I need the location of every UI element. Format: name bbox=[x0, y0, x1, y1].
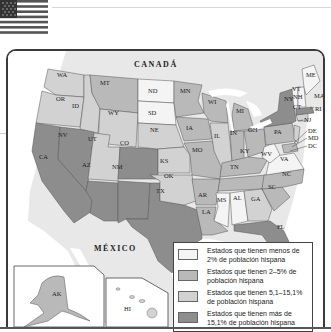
svg-text:AK: AK bbox=[52, 290, 62, 297]
svg-text:WI: WI bbox=[208, 98, 216, 105]
svg-text:OK: OK bbox=[164, 172, 174, 179]
svg-text:MT: MT bbox=[100, 79, 110, 86]
svg-text:MI: MI bbox=[236, 107, 244, 114]
svg-text:NC: NC bbox=[282, 170, 291, 177]
svg-text:VA: VA bbox=[280, 155, 289, 162]
legend-swatch bbox=[178, 270, 198, 281]
svg-text:AL: AL bbox=[233, 194, 242, 201]
legend-item-5to15: Estados que tienen 5,1–15,1% de població… bbox=[178, 289, 307, 306]
svg-text:IN: IN bbox=[230, 129, 237, 136]
svg-text:NV: NV bbox=[58, 131, 68, 138]
svg-text:IL: IL bbox=[214, 132, 220, 139]
svg-text:CT: CT bbox=[293, 103, 301, 110]
svg-text:NJ: NJ bbox=[304, 116, 312, 123]
svg-text:CO: CO bbox=[120, 139, 129, 146]
legend-label: Estados que tienen 5,1–15,1% de població… bbox=[207, 289, 307, 306]
svg-text:RI: RI bbox=[315, 105, 322, 112]
legend-swatch bbox=[178, 249, 198, 260]
header-rule bbox=[52, 7, 331, 8]
svg-text:TX: TX bbox=[156, 187, 165, 194]
svg-text:WY: WY bbox=[108, 109, 119, 116]
legend-item-lt2: Estados que tienen menos de 2% de poblac… bbox=[178, 247, 307, 264]
legend-item-2to5: Estados que tienen 2–5% de población his… bbox=[178, 268, 307, 285]
map-legend: Estados que tienen menos de 2% de poblac… bbox=[173, 242, 313, 332]
svg-text:AZ: AZ bbox=[82, 161, 91, 168]
label-mexico: MÉXICO bbox=[94, 243, 137, 253]
state-CO bbox=[118, 147, 158, 179]
svg-text:ND: ND bbox=[148, 87, 158, 94]
state-NM bbox=[118, 181, 150, 223]
svg-text:KY: KY bbox=[240, 147, 250, 154]
svg-text:LA: LA bbox=[202, 208, 211, 215]
label-canada: CANADÁ bbox=[134, 59, 178, 69]
state-SD bbox=[138, 101, 176, 125]
svg-text:ID: ID bbox=[72, 102, 79, 109]
svg-text:OR: OR bbox=[56, 95, 66, 102]
state-DE-MD bbox=[282, 143, 298, 153]
svg-text:DE: DE bbox=[308, 127, 317, 134]
svg-text:MO: MO bbox=[192, 146, 203, 153]
svg-text:MA: MA bbox=[314, 92, 323, 99]
svg-text:NE: NE bbox=[150, 126, 159, 133]
svg-text:UT: UT bbox=[88, 135, 97, 142]
svg-text:MD: MD bbox=[308, 134, 319, 141]
svg-text:SC: SC bbox=[268, 183, 276, 190]
svg-text:WA: WA bbox=[57, 71, 67, 78]
svg-text:DC: DC bbox=[308, 142, 317, 149]
svg-text:VT: VT bbox=[292, 85, 301, 92]
legend-label: Estados que tienen menos de 2% de poblac… bbox=[207, 247, 307, 264]
svg-text:TN: TN bbox=[230, 163, 239, 170]
svg-text:MS: MS bbox=[217, 196, 227, 203]
svg-text:GA: GA bbox=[251, 195, 261, 202]
footer-rule bbox=[0, 327, 331, 329]
legend-swatch bbox=[178, 312, 198, 323]
svg-text:ME: ME bbox=[306, 71, 316, 78]
svg-text:OH: OH bbox=[248, 126, 258, 133]
svg-text:IA: IA bbox=[186, 124, 193, 131]
legend-label: Estados que tienen más de 15,1% de pobla… bbox=[207, 310, 307, 327]
svg-text:NM: NM bbox=[112, 163, 123, 170]
svg-text:WV: WV bbox=[261, 150, 272, 157]
legend-item-gt15: Estados que tienen más de 15,1% de pobla… bbox=[178, 310, 307, 327]
svg-text:PA: PA bbox=[274, 128, 282, 135]
svg-text:FL: FL bbox=[277, 223, 285, 230]
svg-text:CA: CA bbox=[39, 153, 48, 160]
svg-text:KS: KS bbox=[160, 157, 169, 164]
legend-swatch bbox=[178, 291, 198, 302]
svg-text:AR: AR bbox=[198, 191, 208, 198]
inset-alaska: AK bbox=[14, 266, 104, 327]
svg-text:MN: MN bbox=[180, 87, 191, 94]
svg-text:HI: HI bbox=[124, 305, 131, 312]
us-flag-icon bbox=[0, 0, 48, 34]
svg-text:SD: SD bbox=[148, 109, 157, 116]
svg-text:NH: NH bbox=[293, 93, 303, 100]
legend-label: Estados que tienen 2–5% de población his… bbox=[207, 268, 307, 285]
